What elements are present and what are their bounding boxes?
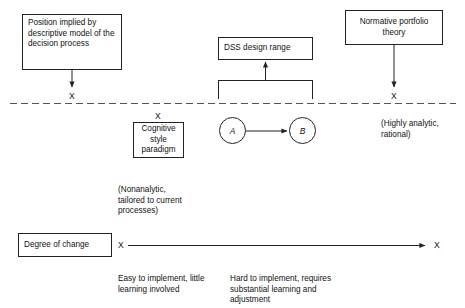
box-degree-of-change-label: Degree of change — [24, 240, 89, 251]
caption-nonanalytic-text: (Nonanalytic, tailored to current proces… — [118, 185, 182, 216]
caption-easy-to-implement-text: Easy to implement, little learning invol… — [118, 274, 204, 294]
marker-x-descriptive-position-label: X — [69, 91, 75, 101]
marker-x-axis-left: X — [118, 241, 124, 250]
caption-easy-to-implement: Easy to implement, little learning invol… — [118, 263, 223, 295]
box-dss-design-range-label: DSS design range — [224, 43, 290, 54]
box-cognitive-style-line-3: paradigm — [141, 145, 175, 156]
marker-x-axis-left-label: X — [118, 240, 124, 250]
caption-highly-analytic-text: (Highly analytic, rational) — [381, 119, 439, 139]
box-normative-portfolio-theory[interactable]: Normative portfolio theory — [345, 10, 443, 45]
box-cognitive-style-line-1: Cognitive — [141, 124, 175, 135]
box-dss-design-range[interactable]: DSS design range — [218, 37, 313, 60]
marker-x-axis-right: X — [434, 241, 440, 250]
marker-x-cognitive-style: X — [155, 112, 161, 121]
caption-highly-analytic: (Highly analytic, rational) — [381, 108, 453, 140]
marker-x-axis-right-label: X — [434, 240, 440, 250]
marker-x-normative-position: X — [391, 92, 397, 101]
box-cognitive-style-paradigm[interactable]: Cognitive style paradigm — [133, 122, 184, 158]
box-descriptive-model-label: Position implied by descriptive model of… — [28, 18, 114, 48]
box-normative-portfolio-theory-label: Normative portfolio theory — [349, 17, 439, 38]
circle-node-b[interactable]: B — [289, 117, 316, 144]
caption-hard-to-implement-text: Hard to implement, requires substantial … — [230, 274, 331, 305]
box-degree-of-change[interactable]: Degree of change — [18, 233, 112, 257]
marker-x-cognitive-style-label: X — [155, 111, 161, 121]
caption-nonanalytic: (Nonanalytic, tailored to current proces… — [118, 174, 188, 217]
marker-x-normative-position-label: X — [391, 91, 397, 101]
dss-range-bracket — [218, 81, 313, 100]
circle-node-b-label: B — [300, 126, 306, 136]
diagram-canvas: Position implied by descriptive model of… — [0, 0, 465, 308]
circle-node-a[interactable]: A — [219, 117, 246, 144]
box-cognitive-style-line-2: style — [150, 135, 167, 146]
caption-hard-to-implement: Hard to implement, requires substantial … — [230, 263, 352, 306]
box-descriptive-model[interactable]: Position implied by descriptive model of… — [22, 14, 122, 70]
marker-x-descriptive-position: X — [69, 92, 75, 101]
circle-node-a-label: A — [230, 126, 236, 136]
